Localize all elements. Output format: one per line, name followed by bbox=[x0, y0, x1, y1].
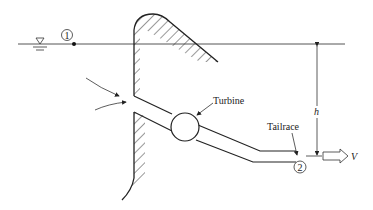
tailrace-label: Tailrace bbox=[267, 121, 300, 132]
point-2-label: 2 bbox=[298, 162, 303, 173]
turbine bbox=[171, 113, 199, 141]
point-2-marker: 2 bbox=[294, 161, 306, 173]
velocity-label: V bbox=[351, 151, 359, 162]
head-label: h bbox=[314, 106, 319, 117]
turbine-label: Turbine bbox=[213, 95, 245, 106]
point-1-label: 1 bbox=[65, 30, 70, 41]
head-dimension bbox=[306, 46, 322, 156]
velocity-arrow bbox=[323, 149, 348, 163]
inflow-arrow-upper bbox=[86, 78, 119, 96]
dam-diagram: 1 Turbine Tailrace 2 h V bbox=[0, 0, 373, 210]
inflow-arrow-lower bbox=[95, 102, 126, 110]
